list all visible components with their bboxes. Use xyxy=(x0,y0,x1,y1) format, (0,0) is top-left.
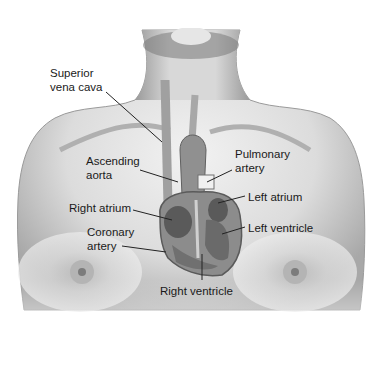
right-atrium-shape xyxy=(164,206,192,238)
label-line: Coronary xyxy=(87,225,134,239)
label-ascending-aorta: Ascending aorta xyxy=(86,154,140,182)
label-right-ventricle: Right ventricle xyxy=(160,284,233,298)
label-line: Superior xyxy=(50,66,102,80)
label-left-ventricle: Left ventricle xyxy=(248,221,313,235)
torso-illustration xyxy=(0,0,380,368)
label-right-atrium: Right atrium xyxy=(69,201,131,215)
heart-diagram: Superior vena cava Ascending aorta Pulmo… xyxy=(0,0,380,368)
label-line: aorta xyxy=(86,168,140,182)
label-line: Pulmonary xyxy=(235,147,290,161)
label-line: vena cava xyxy=(50,80,102,94)
label-line: artery xyxy=(87,239,134,253)
label-left-atrium: Left atrium xyxy=(248,190,302,204)
label-coronary-artery: Coronary artery xyxy=(87,225,134,253)
label-line: artery xyxy=(235,161,290,175)
pulmonary-artery-shape xyxy=(198,175,214,189)
label-pulmonary-artery: Pulmonary artery xyxy=(235,147,290,175)
label-superior-vena-cava: Superior vena cava xyxy=(50,66,102,94)
label-line: Ascending xyxy=(86,154,140,168)
